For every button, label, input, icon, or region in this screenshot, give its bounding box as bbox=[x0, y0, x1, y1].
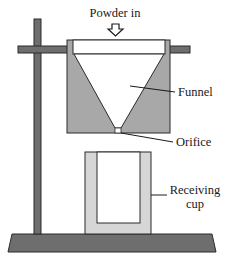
funnel-apparatus-diagram: Powder in Funnel Orifice Receiving cup bbox=[0, 0, 226, 259]
funnel bbox=[67, 40, 170, 133]
powder-in-label: Powder in bbox=[89, 6, 141, 20]
orifice-leader-line bbox=[121, 133, 173, 142]
receiving-cup-label-line1: Receiving bbox=[170, 183, 221, 197]
receiving-cup-label-line2: cup bbox=[186, 197, 204, 211]
stand-base bbox=[8, 234, 216, 252]
receiving-cup bbox=[85, 152, 151, 234]
orifice bbox=[115, 128, 121, 133]
orifice-label: Orifice bbox=[176, 135, 212, 149]
inlet-arrow-icon bbox=[108, 24, 123, 36]
funnel-label: Funnel bbox=[178, 85, 213, 99]
